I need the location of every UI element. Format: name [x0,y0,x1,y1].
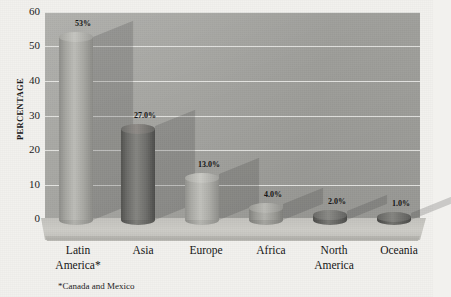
bar-shadow-oceania [411,197,451,220]
y-axis-tick-labels: 60 50 40 30 20 10 0 [14,0,40,240]
x-label-oceania: Oceania [365,243,433,258]
bar-value-europe: 13.0% [198,160,220,169]
x-label-oceania-line1: Oceania [365,243,433,258]
cylinder-cap-asia [121,124,155,134]
bar-series: 53% 27.0% 13.0% [45,12,420,224]
y-tick-10: 10 [14,179,40,190]
x-label-asia: Asia [111,243,175,258]
y-tick-20: 20 [14,144,40,155]
x-label-africa: Africa [239,243,303,258]
cylinder-europe [185,173,219,220]
x-label-latin-america-line1: Latin [45,243,111,258]
y-tick-40: 40 [14,75,40,86]
cylinder-oceania [377,212,411,220]
bar-value-latin-america: 53% [75,19,91,28]
bar-value-asia: 27.0% [134,111,156,120]
x-label-north-america: North America [301,243,367,272]
cylinder-cap-europe [185,173,219,183]
cylinder-africa [249,203,283,220]
x-label-latin-america: Latin America* [45,243,111,272]
x-label-africa-line1: Africa [239,243,303,258]
y-tick-0: 0 [14,213,40,224]
cylinder-cap-africa [249,203,283,213]
x-label-europe: Europe [173,243,239,258]
x-label-europe-line1: Europe [173,243,239,258]
x-label-asia-line1: Asia [111,243,175,258]
bar-value-africa: 4.0% [264,190,282,199]
cylinder-body-europe [185,178,219,220]
chart-floor-edge [41,236,426,241]
bar-value-oceania: 1.0% [392,199,410,208]
y-tick-30: 30 [14,110,40,121]
y-tick-50: 50 [14,40,40,51]
bar-oceania[interactable]: 1.0% [377,12,423,224]
bar-latin-america[interactable]: 53% [59,12,105,224]
cylinder-cap-oceania [377,212,411,222]
x-label-north-america-line1: North [301,243,367,258]
cylinder-cap-north-america [313,210,347,220]
cylinder-cap-latin-america [59,32,93,42]
x-label-north-america-line2: America [301,258,367,273]
cylinder-body-latin-america [59,37,93,220]
x-label-latin-america-line2: America* [45,258,111,273]
y-tick-60: 60 [14,6,40,17]
chart-footnote: *Canada and Mexico [58,281,134,291]
cylinder-north-america [313,210,347,220]
cylinder-asia [121,124,155,220]
cylinder-body-asia [121,129,155,220]
bar-value-north-america: 2.0% [328,197,346,206]
cylinder-latin-america [59,32,93,220]
